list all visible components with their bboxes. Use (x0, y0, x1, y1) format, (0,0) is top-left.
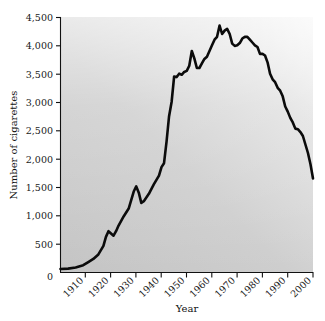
y-axis-title: Number of cigarettes (8, 91, 19, 200)
y-tick-label-4500: 4,500 (26, 12, 53, 23)
y-tick-label-4000: 4,000 (26, 40, 53, 51)
chart-svg: 4,500 4,000 3,500 3,000 2,500 2,000 1,50… (0, 0, 325, 321)
y-tick-label-3500: 3,500 (26, 69, 53, 80)
y-tick-label-0: 0 (47, 271, 53, 282)
cigarette-consumption-chart: 4,500 4,000 3,500 3,000 2,500 2,000 1,50… (0, 0, 325, 321)
y-tick-label-1000: 1,000 (26, 210, 53, 221)
y-tick-label-2000: 2,000 (26, 154, 53, 165)
x-axis-title: Year (175, 303, 199, 314)
plot-background-highlight (60, 17, 313, 272)
y-tick-label-1500: 1,500 (26, 182, 53, 193)
y-tick-label-3000: 3,000 (26, 97, 53, 108)
y-tick-label-2500: 2,500 (26, 125, 53, 136)
y-tick-label-500: 500 (35, 239, 53, 250)
